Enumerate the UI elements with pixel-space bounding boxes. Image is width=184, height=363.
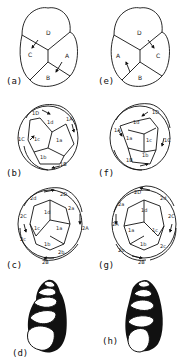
cell-1d: 1d xyxy=(133,119,139,125)
cell-C: C xyxy=(156,52,160,59)
cell-A: A xyxy=(65,52,70,59)
cell-2B: 2B xyxy=(42,259,49,265)
cell-2D: 2D xyxy=(134,189,141,195)
cell-1A: 1A xyxy=(114,127,121,133)
cell-D: D xyxy=(46,29,51,36)
cell-2D: 2D xyxy=(60,191,67,197)
panel-c-sixteen-cell: 2d 2D 1d 2a 2C 1c 1a 2A 2c 1b 2b 2B (c) xyxy=(6,188,89,270)
cell-2c: 2c xyxy=(160,243,166,249)
panel-label-f: (f) xyxy=(98,168,114,178)
panel-label-c: (c) xyxy=(6,260,22,270)
panel-b-eight-cell: 1D 1d 1A 1a 1C 1c 1b 1B (b) xyxy=(6,105,78,179)
cell-2C: 2C xyxy=(20,213,27,219)
cell-C: C xyxy=(28,51,32,58)
panel-label-b: (b) xyxy=(6,168,22,178)
cell-1B: 1B xyxy=(60,161,67,167)
cell-2c: 2c xyxy=(20,236,26,242)
panel-label-g: (g) xyxy=(98,260,114,270)
cell-1b: 1b xyxy=(40,154,46,160)
panel-label-a: (a) xyxy=(6,76,22,86)
spiral-cleavage-figure: D C A B (a) D A C B (e) 1D 1d 1A 1a 1C 1 xyxy=(0,0,184,363)
cell-1c: 1c xyxy=(34,136,40,142)
cell-1d: 1d xyxy=(141,207,147,213)
cell-1c: 1c xyxy=(152,227,158,233)
cell-1c: 1c xyxy=(146,137,152,143)
cell-1b: 1b xyxy=(140,241,146,247)
panel-label-e: (e) xyxy=(98,76,114,86)
cell-1b: 1b xyxy=(44,241,50,247)
cell-1b: 1b xyxy=(142,152,148,158)
panel-e-four-cell: D A C B (e) xyxy=(98,8,170,87)
cell-1A: 1A xyxy=(66,116,73,122)
cell-1C: 1C xyxy=(164,137,171,143)
cell-2d: 2d xyxy=(30,195,36,201)
cell-A: A xyxy=(116,52,121,59)
cell-2d: 2d xyxy=(160,195,166,201)
cell-1d: 1d xyxy=(47,119,53,125)
panel-d-dextral-shell: (d) xyxy=(12,280,67,358)
cell-2b: 2b xyxy=(118,247,124,253)
cell-1C: 1C xyxy=(18,136,25,142)
cell-2C: 2C xyxy=(168,213,175,219)
cell-2a: 2a xyxy=(68,205,74,211)
cell-1D: 1D xyxy=(152,109,159,115)
cell-1D: 1D xyxy=(32,110,39,116)
cell-B: B xyxy=(138,74,142,81)
panel-g-sixteen-cell: 2D 1d 2d 2a 2C 2A 1a 1c 1b 2c 2b 2B (g) xyxy=(98,186,176,270)
cell-2a: 2a xyxy=(118,201,124,207)
cell-1B: 1B xyxy=(126,157,133,163)
cell-1d: 1d xyxy=(44,209,50,215)
cell-2b: 2b xyxy=(58,249,64,255)
cell-2A: 2A xyxy=(82,225,89,231)
panel-label-d: (d) xyxy=(12,348,28,358)
cell-D: D xyxy=(137,29,142,36)
cell-1a: 1a xyxy=(126,135,132,141)
cell-1a: 1a xyxy=(56,225,62,231)
cell-1a: 1a xyxy=(128,227,134,233)
panel-a-four-cell: D C A B (a) xyxy=(6,8,78,87)
panel-f-eight-cell: 1D 1d 1A 1a 1c 1C 1B 1b (f) xyxy=(98,104,171,178)
cell-1a: 1a xyxy=(56,137,62,143)
panel-h-sinistral-shell: (h) xyxy=(102,280,163,352)
cell-2A: 2A xyxy=(112,221,119,227)
cell-1c: 1c xyxy=(34,225,40,231)
cell-2B: 2B xyxy=(138,259,145,265)
panel-label-h: (h) xyxy=(102,336,118,346)
cell-B: B xyxy=(46,74,50,81)
